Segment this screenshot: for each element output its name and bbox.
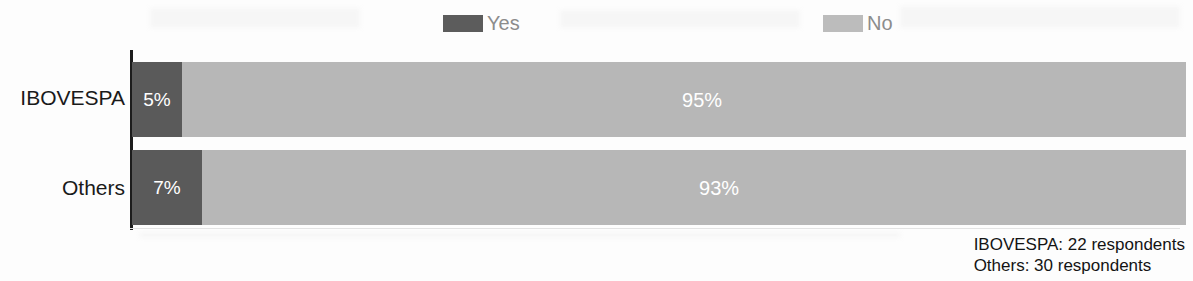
bar-row: 7% 93% xyxy=(132,150,1186,225)
bar-value-label: 95% xyxy=(682,89,722,111)
bar-segment-yes: 7% xyxy=(132,150,202,225)
footnote-line-ibovespa: IBOVESPA: 22 respondents xyxy=(974,234,1185,255)
stacked-bar-chart: Yes No IBOVESPA Others 5% 95% 7% 9 xyxy=(0,0,1193,281)
category-label-others: Others xyxy=(62,176,125,200)
footnote-line-others: Others: 30 respondents xyxy=(974,255,1185,276)
bar-segment-yes: 5% xyxy=(132,62,182,137)
bar-row: 5% 95% xyxy=(132,62,1186,137)
bar-segment-no: 93% xyxy=(202,150,1186,225)
x-axis-baseline xyxy=(130,228,1180,229)
bar-segment-no: 95% xyxy=(182,62,1186,137)
bar-value-label: 7% xyxy=(153,177,180,199)
bar-value-label: 5% xyxy=(143,89,170,111)
category-label-ibovespa: IBOVESPA xyxy=(20,86,125,110)
chart-footnote: IBOVESPA: 22 respondents Others: 30 resp… xyxy=(974,234,1185,276)
bar-value-label: 93% xyxy=(699,177,739,199)
